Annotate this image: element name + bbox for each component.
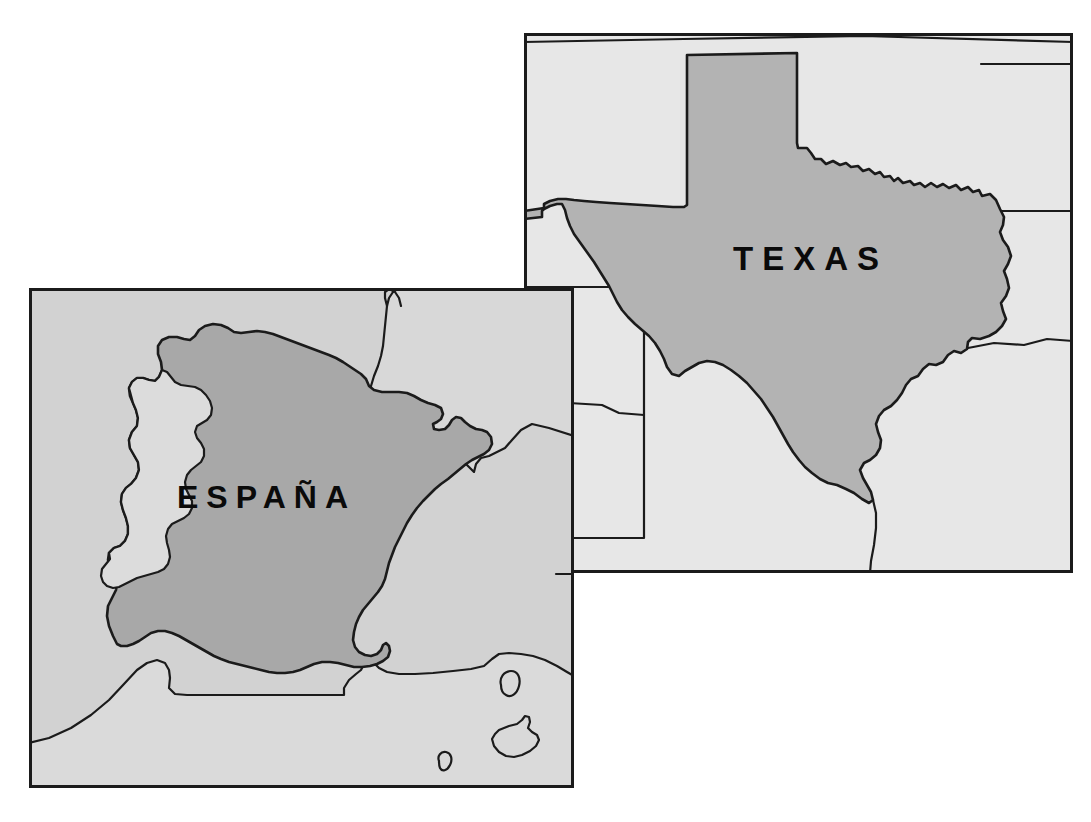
menorca-island: [501, 671, 520, 696]
map-panel-espana[interactable]: ESPAÑA: [29, 288, 574, 788]
map-panel-texas[interactable]: TEXAS: [524, 33, 1073, 573]
figure-canvas: TEXAS: [0, 0, 1091, 822]
texas-map-svg: TEXAS: [524, 33, 1073, 573]
texas-label: TEXAS: [733, 240, 888, 277]
espana-map-svg: ESPAÑA: [29, 288, 574, 788]
espana-label: ESPAÑA: [177, 479, 356, 515]
ibiza-island: [438, 752, 451, 771]
